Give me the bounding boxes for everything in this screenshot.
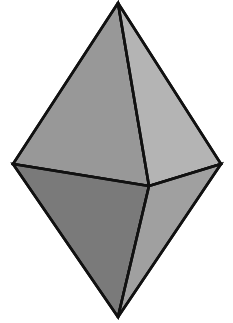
bipyramid-svg: Hexagonal-outline bipyramid (octahedron-… [0, 0, 233, 323]
figure-canvas: Hexagonal-outline bipyramid (octahedron-… [0, 0, 233, 323]
